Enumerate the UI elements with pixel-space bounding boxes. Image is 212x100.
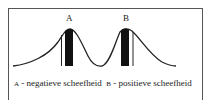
caption-a-text: - negatieve scheefheid — [19, 78, 102, 88]
peak-a-label: A — [66, 13, 73, 23]
peak-b-shaded-bar — [121, 29, 129, 66]
caption: A - negatieve scheefheid B - positieve s… — [14, 78, 192, 88]
peak-a-shaded-bar — [65, 29, 73, 66]
caption-b-text: - positieve scheefheid — [111, 78, 192, 88]
peak-b-label: B — [123, 13, 129, 23]
distribution-curve — [13, 29, 176, 66]
